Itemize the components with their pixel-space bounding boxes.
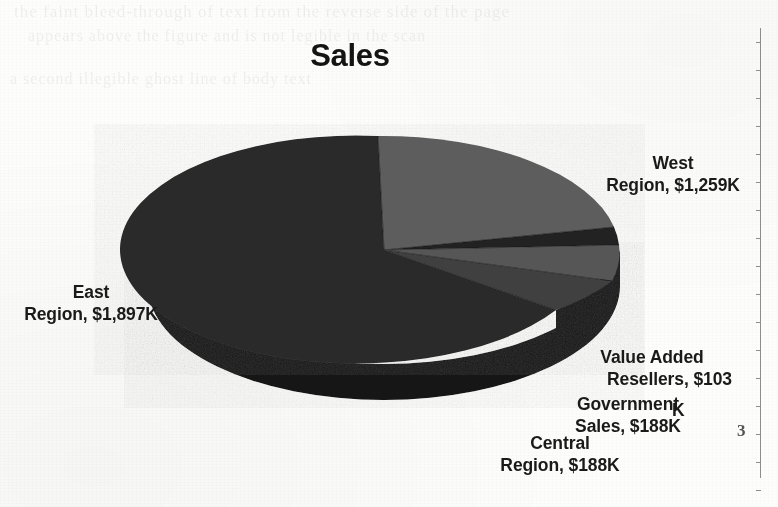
ruler-tick: [756, 154, 761, 155]
ruler-tick: [756, 126, 761, 127]
ruler-tick: [756, 182, 761, 183]
pie-label-central-region-line1: Central: [480, 432, 640, 454]
pie-label-east-region-line2: Region, $1,897K: [2, 303, 180, 325]
ruler-tick: [756, 294, 761, 295]
pie-label-central-region-line2: Region, $188K: [480, 454, 640, 476]
pie-label-east-region-line1: East: [2, 281, 180, 303]
page-margin-ruler: [760, 28, 761, 478]
pie-label-west-region: West Region, $1,259K: [598, 152, 748, 197]
ruler-tick: [756, 378, 761, 379]
pie-label-west-region-line2: Region, $1,259K: [598, 174, 748, 196]
pie-label-value-added-resellers: Value Added Resellers, $103 K: [572, 346, 732, 391]
ruler-tick: [756, 210, 761, 211]
ruler-tick: [756, 406, 761, 407]
pie-label-value-added-resellers-line1: Value Added: [572, 346, 732, 368]
pie-label-east-region: East Region, $1,897K: [2, 281, 180, 326]
ruler-tick: [756, 462, 761, 463]
pie-slices: [120, 136, 620, 364]
ruler-tick: [756, 42, 761, 43]
pie-label-government-sales-line1: Government: [556, 393, 700, 415]
ruler-tick: [756, 490, 761, 491]
pie-label-west-region-line1: West: [598, 152, 748, 174]
ruler-tick: [756, 70, 761, 71]
ruler-tick: [756, 350, 761, 351]
ruler-tick: [756, 266, 761, 267]
page-number: 3: [737, 421, 746, 441]
ruler-tick: [756, 98, 761, 99]
ruler-tick: [756, 434, 761, 435]
pie-label-value-added-resellers-line2: Resellers, $103: [572, 368, 732, 390]
ruler-tick: [756, 238, 761, 239]
ruler-tick: [756, 322, 761, 323]
pie-label-central-region: Central Region, $188K: [480, 432, 640, 477]
